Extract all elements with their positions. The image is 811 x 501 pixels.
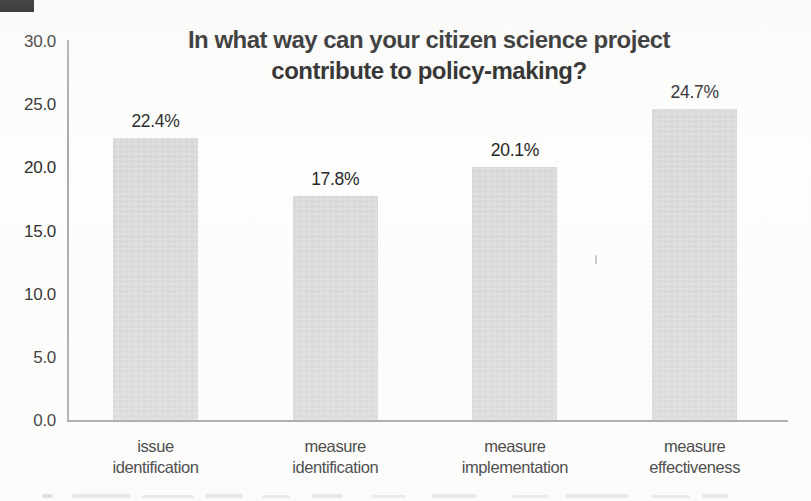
caption-smudge-mark [72,494,130,498]
caption-smudge-mark [702,494,728,498]
bar-measure-effectiveness [652,109,737,420]
x-axis-category-label-line: measure [250,436,420,457]
x-axis-category-label-line: effectiveness [610,457,780,478]
x-axis-category-label-line: issue [71,436,241,457]
caption-smudge-mark [512,495,548,498]
caption-smudge-mark [372,495,406,498]
x-axis-category-label: measureeffectiveness [610,436,780,478]
bar-value-label: 24.7% [635,82,755,102]
bar-scan-texture [293,196,378,420]
y-tick-label: 25.0 [10,95,56,115]
x-axis-category-label-line: measure [610,436,780,457]
y-tick-label: 20.0 [10,158,56,178]
bar-scan-texture [113,138,198,420]
caption-smudge-mark [652,495,690,498]
x-axis-category-label-line: implementation [430,457,600,478]
y-tick-label: 15.0 [10,222,56,242]
x-axis-category-label-line: identification [71,457,241,478]
x-axis-category-label: measureidentification [250,436,420,478]
caption-smudge-mark [432,494,476,498]
bar-value-label: 20.1% [455,140,575,160]
bar-measure-identification [293,196,378,420]
scan-speck [595,255,597,264]
caption-smudge-mark [565,494,629,498]
x-axis-category-label-line: measure [430,436,600,457]
y-tick-label: 10.0 [10,285,56,305]
scan-artifact-corner-bar [0,0,34,12]
caption-smudge-mark [205,494,243,498]
y-tick-label: 5.0 [10,348,56,368]
bar-scan-texture [652,109,737,420]
scanned-bar-chart-figure: In what way can your citizen science pro… [0,0,811,501]
chart-title: In what way can your citizen science pro… [68,24,790,86]
x-axis-category-label: issueidentification [71,436,241,478]
y-axis-line [67,40,69,421]
x-axis-category-label-line: identification [250,457,420,478]
caption-smudge-mark [142,495,194,498]
caption-smudge-mark [42,494,53,498]
x-axis-category-label: measureimplementation [430,436,600,478]
y-tick-label: 30.0 [10,32,56,52]
bar-issue-identification [113,138,198,420]
bar-scan-texture [472,167,557,420]
caption-smudge-mark [262,495,290,498]
y-tick-label: 0.0 [10,411,56,431]
bar-value-label: 22.4% [96,111,216,131]
bar-value-label: 17.8% [275,169,395,189]
chart-title-line-1: In what way can your citizen science pro… [68,24,790,55]
bar-measure-implementation [472,167,557,420]
caption-smudge-mark [312,494,342,498]
x-axis-line [67,420,788,422]
